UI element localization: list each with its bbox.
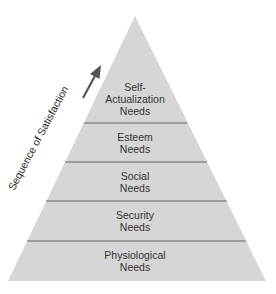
needs-pyramid-diagram: Sequence of Satisfaction Self- Actualiza… xyxy=(0,0,276,294)
level-label-line: Needs xyxy=(75,261,195,273)
level-label-line: Self- xyxy=(75,81,195,93)
level-social: Social Needs xyxy=(75,170,195,194)
level-label-line: Social xyxy=(75,170,195,182)
level-security: Security Needs xyxy=(75,209,195,233)
level-label-line: Needs xyxy=(75,182,195,194)
level-physiological: Physiological Needs xyxy=(75,249,195,273)
level-label-line: Actualization xyxy=(75,93,195,105)
level-label-line: Physiological xyxy=(75,249,195,261)
level-label-line: Needs xyxy=(75,143,195,155)
level-esteem: Esteem Needs xyxy=(75,131,195,155)
level-self-actualization: Self- Actualization Needs xyxy=(75,81,195,117)
level-label-line: Esteem xyxy=(75,131,195,143)
level-label-line: Needs xyxy=(75,221,195,233)
level-label-line: Needs xyxy=(75,105,195,117)
level-label-line: Security xyxy=(75,209,195,221)
